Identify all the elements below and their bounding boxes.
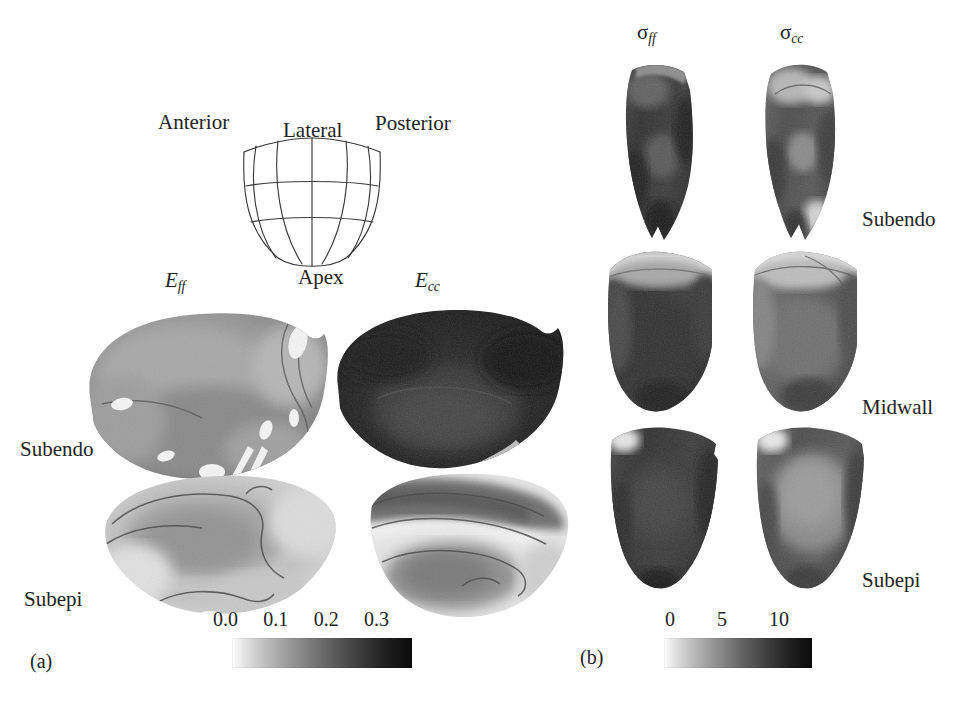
panel-b-tick-0: 0 xyxy=(665,608,675,631)
surface-a-subepi-eff xyxy=(96,470,356,630)
panel-a-tick-2: 0.2 xyxy=(314,608,339,631)
panel-b-header-sigma-ff-sub: ff xyxy=(648,31,655,46)
panel-a-row-label-subepi: Subepi xyxy=(24,587,82,612)
panel-b-header-sigma-cc-base: σ xyxy=(780,20,791,44)
surface-b-subepi-sigma-ff xyxy=(602,424,726,596)
panel-b-row-label-subendo: Subendo xyxy=(862,207,936,232)
panel-b-caption: (b) xyxy=(580,646,603,669)
panel-a-tick-0: 0.0 xyxy=(213,608,238,631)
panel-a-header-eff: Eff xyxy=(165,268,185,295)
figure-canvas: Anterior Lateral Posterior Apex Eff xyxy=(0,0,979,705)
schematic-label-anterior: Anterior xyxy=(158,110,229,135)
panel-b-tick-1: 5 xyxy=(717,608,727,631)
panel-a-colorbar xyxy=(232,638,412,668)
panel-a-tick-1: 0.1 xyxy=(263,608,288,631)
surface-b-subendo-sigma-cc xyxy=(755,60,851,245)
schematic-label-posterior: Posterior xyxy=(375,111,451,136)
surface-a-subepi-ecc xyxy=(366,466,576,632)
panel-b-header-sigma-ff-base: σ xyxy=(637,20,648,44)
panel-a-header-ecc-base: E xyxy=(415,268,428,292)
panel-a-colorbar-ticks: 0.0 0.1 0.2 0.3 xyxy=(213,608,389,631)
panel-a-tick-3: 0.3 xyxy=(364,608,389,631)
panel-b-row-label-midwall: Midwall xyxy=(862,395,933,420)
panel-b-colorbar-ticks: 0 5 10 xyxy=(665,608,789,631)
panel-a-header-eff-sub: ff xyxy=(178,279,185,294)
panel-b-colorbar xyxy=(664,638,812,668)
panel-b-header-sigma-ff: σff xyxy=(637,20,656,47)
surface-b-midwall-sigma-cc xyxy=(745,248,867,416)
panel-b-header-sigma-cc: σcc xyxy=(780,20,803,47)
schematic-label-apex: Apex xyxy=(298,265,344,290)
panel-b-tick-2: 10 xyxy=(769,608,789,631)
surface-b-subepi-sigma-cc xyxy=(748,424,872,596)
panel-a-caption: (a) xyxy=(30,650,52,673)
panel-a-header-eff-base: E xyxy=(165,268,178,292)
panel-a-header-ecc: Ecc xyxy=(415,268,440,295)
surface-b-midwall-sigma-ff xyxy=(600,248,722,416)
panel-b-header-sigma-cc-sub: cc xyxy=(791,31,803,46)
panel-a-header-ecc-sub: cc xyxy=(428,279,440,294)
ventricle-mesh-schematic xyxy=(238,136,386,268)
surface-b-subendo-sigma-ff xyxy=(614,60,710,245)
surface-a-subendo-eff xyxy=(62,300,342,490)
surface-a-subendo-ecc xyxy=(326,300,576,480)
